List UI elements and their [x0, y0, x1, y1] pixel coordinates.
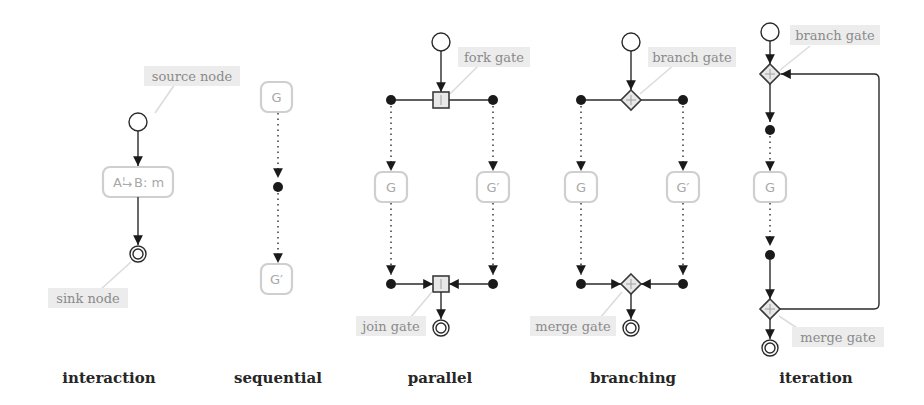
sink-note: sink node — [48, 262, 131, 308]
sink-node-icon — [762, 340, 778, 356]
branch-gate-icon — [760, 64, 780, 84]
source-node-icon — [432, 33, 450, 51]
iteration-diagram: branch gate G me — [754, 23, 884, 356]
svg-text:branch gate: branch gate — [795, 28, 875, 43]
svg-text:G′: G′ — [270, 272, 283, 287]
branching-node-g-prime[interactable]: G′ — [667, 172, 699, 202]
svg-text:fork gate: fork gate — [464, 50, 524, 65]
merge-note: merge gate — [530, 292, 622, 336]
iteration-node-g[interactable]: G — [754, 172, 786, 202]
fork-note: fork gate — [450, 47, 530, 94]
source-node-icon — [129, 113, 147, 131]
svg-text:B: m: B: m — [134, 175, 164, 190]
svg-text:G: G — [765, 180, 775, 195]
svg-text:join gate: join gate — [360, 319, 420, 334]
caption-iteration: iteration — [779, 369, 852, 387]
interaction-diagram: source node A ! → B: m sink node — [48, 66, 240, 308]
svg-text:G′: G′ — [676, 180, 689, 195]
fork-gate-icon — [433, 92, 449, 108]
interaction-node[interactable]: A ! → B: m — [103, 167, 173, 197]
parallel-node-g[interactable]: G — [375, 172, 407, 202]
parallel-node-g-prime[interactable]: G′ — [477, 172, 509, 202]
caption-parallel: parallel — [408, 369, 473, 387]
merge-note: merge gate — [779, 316, 884, 347]
sequential-diagram: G G′ — [261, 82, 292, 294]
parallel-diagram: fork gate G G′ — [356, 33, 530, 336]
svg-text:→: → — [122, 177, 132, 191]
merge-gate-icon — [621, 274, 641, 294]
source-node-icon — [761, 23, 779, 41]
svg-text:G′: G′ — [486, 180, 499, 195]
svg-text:merge gate: merge gate — [535, 319, 611, 334]
sequential-node-g-prime[interactable]: G′ — [261, 264, 292, 294]
sequential-node-g[interactable]: G — [261, 82, 292, 112]
svg-text:A: A — [113, 175, 122, 190]
sink-node-icon — [623, 320, 639, 336]
branch-note: branch gate — [780, 25, 880, 70]
join-gate-icon — [433, 276, 449, 292]
caption-sequential: sequential — [234, 369, 322, 387]
branch-gate-icon — [621, 90, 641, 110]
sink-node-icon — [433, 320, 449, 336]
source-node-icon — [622, 33, 640, 51]
svg-text:branch gate: branch gate — [652, 50, 732, 65]
sink-node-icon — [130, 246, 146, 262]
svg-text:G: G — [386, 180, 396, 195]
join-note: join gate — [356, 292, 432, 336]
branching-node-g[interactable]: G — [565, 172, 597, 202]
merge-gate-icon — [760, 299, 780, 319]
choreography-diagram: source node A ! → B: m sink node G — [0, 0, 924, 405]
loop-back-edge — [780, 74, 879, 309]
caption-branching: branching — [590, 369, 677, 387]
svg-text:G: G — [271, 90, 281, 105]
svg-text:G: G — [576, 180, 586, 195]
svg-text:sink node: sink node — [56, 291, 120, 306]
source-note: source node — [144, 66, 240, 113]
svg-text:merge gate: merge gate — [800, 330, 876, 345]
sequence-connector-dot — [273, 182, 283, 192]
caption-interaction: interaction — [62, 369, 155, 387]
branch-note: branch gate — [640, 47, 736, 94]
svg-text:source node: source node — [152, 69, 233, 84]
branching-diagram: branch gate G G′ — [530, 33, 736, 336]
